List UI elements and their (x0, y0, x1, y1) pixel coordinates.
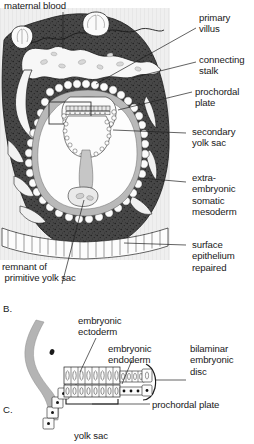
label-maternal-blood: maternal blood (4, 0, 66, 11)
embryonic-ectoderm-cells (64, 367, 120, 384)
embryonic-endoderm-cells (64, 385, 120, 397)
label-prochordal-plate-c: prochordal plate (152, 399, 219, 410)
label-embryonic-ectoderm: embryonic ectoderm (78, 315, 121, 338)
panel-a-artwork (0, 8, 170, 260)
panel-c-id: C. (3, 404, 13, 415)
label-connecting-stalk: connecting stalk (199, 54, 244, 77)
bilaminar-embryonic-disc (66, 106, 110, 115)
label-surface-epithelium-repaired: surface epithelium repaired (192, 239, 235, 273)
label-remnant-primitive-yolk-sac: remnant of primitive yolk sac (2, 261, 76, 284)
label-embryonic-endoderm: embryonic endoderm (108, 343, 151, 366)
label-prochordal-plate: prochordal plate (195, 86, 239, 109)
label-bilaminar-embryonic-disc: bilaminar embryonic disc (190, 343, 233, 377)
label-yolk-sac: yolk sac (74, 430, 108, 441)
figure-root: maternal blood primary villus connecting… (0, 0, 254, 444)
label-secondary-yolk-sac: secondary yolk sac (192, 126, 235, 149)
prochordal-plate-brace (66, 399, 118, 404)
label-extraembryonic-somatic-mesoderm: extra- embryonic somatic mesoderm (192, 172, 237, 218)
yolk-stalk (79, 150, 93, 188)
disc-right-end-cells (142, 369, 152, 396)
panel-b-id: B. (3, 303, 12, 314)
label-primary-villus: primary villus (199, 12, 230, 35)
